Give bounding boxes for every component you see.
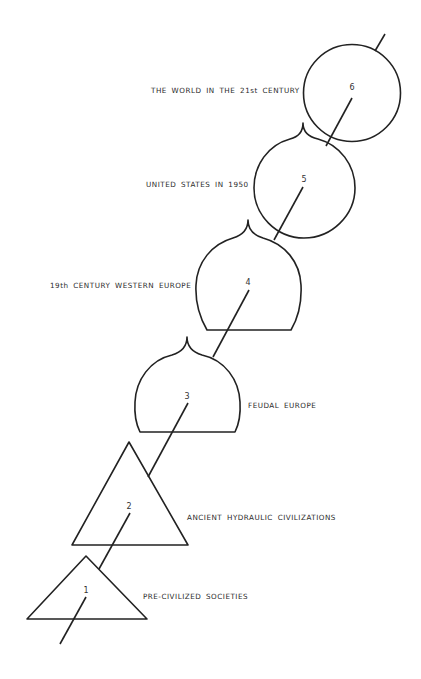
stage-1-tail-line: [60, 597, 86, 644]
stage-6-connector-line: [326, 98, 352, 146]
stage-6-group: 6: [304, 34, 401, 146]
stage-6-number: 6: [349, 83, 354, 92]
stage-2-connector-line: [99, 513, 130, 569]
stage-6-exit-line: [375, 34, 385, 51]
stage-3-number: 3: [184, 392, 189, 401]
stage-1-label: PRE-CIVILIZED SOCIETIES: [143, 592, 248, 602]
stage-diagram: 1 2 3 4 5 6: [0, 0, 421, 679]
stage-1-group: 1: [27, 556, 147, 644]
stage-3-connector-line: [148, 403, 188, 477]
stage-4-number: 4: [245, 278, 250, 287]
stage-5-number: 5: [301, 175, 306, 184]
stage-2-number: 2: [126, 502, 131, 511]
stage-4-label: 19th CENTURY WESTERN EUROPE: [50, 281, 191, 291]
stage-5-connector-line: [274, 187, 303, 240]
stage-2-triangle: [72, 442, 188, 545]
stage-5-label: UNITED STATES IN 1950: [146, 180, 249, 190]
stage-2-group: 2: [72, 442, 188, 569]
stage-6-label: THE WORLD IN THE 21st CENTURY: [151, 86, 300, 96]
stage-4-dome: [196, 220, 301, 330]
stage-4-connector-line: [213, 290, 249, 357]
stage-3-label: FEUDAL EUROPE: [248, 401, 316, 411]
stage-3-dome: [135, 337, 240, 432]
stage-4-group: 4: [196, 220, 301, 357]
stage-6-circle: [304, 45, 401, 142]
stage-2-label: ANCIENT HYDRAULIC CIVILIZATIONS: [187, 513, 336, 523]
stage-3-group: 3: [135, 337, 240, 477]
stage-1-number: 1: [83, 586, 88, 595]
